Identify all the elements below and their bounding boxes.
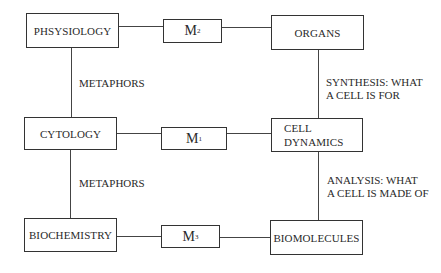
biomolecules-label: BIOMOLECULES — [273, 232, 359, 244]
connector-physiology-cytology — [71, 48, 72, 117]
metaphors-label-upper: METAPHORS — [79, 77, 145, 90]
m2-label: M — [184, 23, 197, 39]
connector-biochemistry-m3 — [117, 236, 161, 237]
organs-label: ORGANS — [295, 27, 341, 39]
connector-cytology-biochemistry — [70, 150, 71, 218]
connector-physiology-m2 — [119, 26, 163, 27]
m1-label: M — [186, 131, 199, 147]
metaphors-label-lower: METAPHORS — [79, 177, 145, 190]
connector-cytology-m1 — [117, 133, 161, 134]
m3-subscript: 3 — [195, 233, 199, 241]
analysis-label: ANALYSIS: WHAT A CELL IS MADE OF — [327, 174, 429, 200]
connector-m1-celldynamics — [227, 133, 271, 134]
m1-box: M1 — [161, 127, 227, 150]
connector-organs-celldynamics — [318, 50, 319, 118]
organs-box: ORGANS — [271, 15, 364, 50]
m3-box: M3 — [161, 225, 220, 248]
m2-subscript: 2 — [197, 27, 201, 35]
m1-subscript: 1 — [198, 135, 202, 143]
biochemistry-box: BIOCHEMISTRY — [24, 218, 117, 252]
physiology-box: PHSYSIOLOGY — [26, 13, 119, 48]
connector-m2-organs — [222, 27, 271, 28]
cytology-label: CYTOLOGY — [40, 128, 101, 140]
m2-box: M2 — [163, 19, 222, 43]
cell-dynamics-box: CELL DYNAMICS — [271, 118, 363, 152]
biochemistry-label: BIOCHEMISTRY — [29, 229, 112, 241]
cytology-box: CYTOLOGY — [24, 117, 117, 150]
biomolecules-box: BIOMOLECULES — [270, 220, 363, 255]
connector-celldynamics-biomolecules — [318, 152, 319, 220]
connector-m3-biomolecules — [220, 237, 270, 238]
cell-dynamics-label: CELL DYNAMICS — [284, 121, 343, 149]
physiology-label: PHSYSIOLOGY — [34, 25, 112, 37]
synthesis-label: SYNTHESIS: WHAT A CELL IS FOR — [326, 76, 423, 102]
m3-label: M — [182, 229, 195, 245]
